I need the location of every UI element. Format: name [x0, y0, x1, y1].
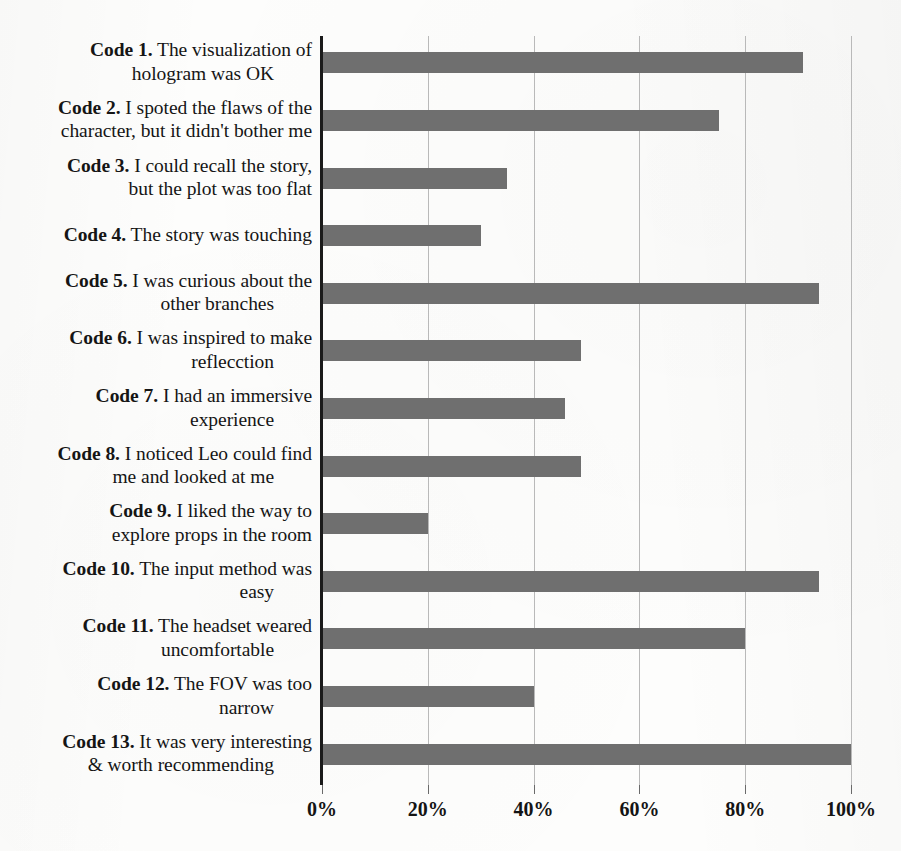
- code-text: The visualization of: [153, 39, 312, 60]
- category-label: Code 6. I was inspired to makereflecctio…: [6, 326, 312, 373]
- bar: [322, 628, 745, 649]
- category-label: Code 11. The headset weareduncomfortable: [6, 614, 312, 661]
- category-label: Code 9. I liked the way toexplore props …: [6, 499, 312, 546]
- category-label-line-1: Code 2. I spoted the flaws of the: [6, 96, 312, 120]
- category-label-line-2: but the plot was too flat: [6, 177, 312, 201]
- category-label-line-2: narrow: [6, 696, 312, 720]
- bar: [322, 744, 851, 765]
- code-text: I liked the way to: [172, 500, 312, 521]
- x-axis-tick: [851, 785, 852, 794]
- code-key: Code 3.: [67, 155, 129, 176]
- category-label: Code 10. The input method waseasy: [6, 557, 312, 604]
- category-label-line-1: Code 9. I liked the way to: [6, 499, 312, 523]
- category-label-line-2: me and looked at me: [6, 465, 312, 489]
- category-label-line-1: Code 4. The story was touching: [6, 223, 312, 247]
- code-key: Code 6.: [69, 327, 131, 348]
- x-gridline: [639, 36, 640, 785]
- code-text: I had an immersive: [158, 385, 312, 406]
- category-label-line-2: other branches: [6, 292, 312, 316]
- bar: [322, 283, 819, 304]
- chart-page: Code 1. The visualization ofhologram was…: [0, 0, 901, 851]
- bar: [322, 456, 581, 477]
- code-text: I was inspired to make: [132, 327, 312, 348]
- code-text: The FOV was too: [169, 673, 312, 694]
- code-key: Code 10.: [62, 558, 134, 579]
- category-label-line-1: Code 10. The input method was: [6, 557, 312, 581]
- category-label-line-2: uncomfortable: [6, 638, 312, 662]
- category-label-line-1: Code 12. The FOV was too: [6, 672, 312, 696]
- category-label: Code 13. It was very interesting& worth …: [6, 730, 312, 777]
- code-key: Code 12.: [97, 673, 169, 694]
- bar: [322, 110, 719, 131]
- bar: [322, 340, 581, 361]
- x-axis-tick: [639, 785, 640, 794]
- category-label-line-1: Code 1. The visualization of: [6, 38, 312, 62]
- x-axis-tick-label: 80%: [705, 798, 785, 821]
- x-gridline: [745, 36, 746, 785]
- x-axis-tick-label: 60%: [599, 798, 679, 821]
- category-label-line-1: Code 7. I had an immersive: [6, 384, 312, 408]
- code-key: Code 8.: [57, 443, 119, 464]
- category-label: Code 2. I spoted the flaws of thecharact…: [6, 96, 312, 143]
- bar: [322, 571, 819, 592]
- x-axis-tick-label: 20%: [388, 798, 468, 821]
- category-label-line-2: & worth recommending: [6, 753, 312, 777]
- x-axis-tick: [428, 785, 429, 794]
- bar: [322, 686, 534, 707]
- bar: [322, 398, 565, 419]
- code-key: Code 13.: [62, 731, 134, 752]
- x-axis-tick-label: 100%: [811, 798, 891, 821]
- category-label-line-2: hologram was OK: [6, 62, 312, 86]
- code-text: The input method was: [135, 558, 312, 579]
- code-key: Code 11.: [82, 615, 153, 636]
- category-label-line-2: experience: [6, 408, 312, 432]
- code-key: Code 1.: [90, 39, 152, 60]
- x-axis-tick-label: 0%: [282, 798, 362, 821]
- category-label-line-1: Code 3. I could recall the story,: [6, 154, 312, 178]
- code-key: Code 5.: [65, 270, 127, 291]
- category-label: Code 4. The story was touching: [6, 223, 312, 247]
- code-text: The headset weared: [154, 615, 312, 636]
- category-label: Code 1. The visualization ofhologram was…: [6, 38, 312, 85]
- category-label-line-2: reflecction: [6, 350, 312, 374]
- bar: [322, 513, 428, 534]
- code-key: Code 4.: [64, 224, 126, 245]
- bar: [322, 168, 507, 189]
- x-axis-tick: [534, 785, 535, 794]
- category-label: Code 7. I had an immersiveexperience: [6, 384, 312, 431]
- plot-area: 0%20%40%60%80%100%: [322, 36, 851, 785]
- code-key: Code 9.: [109, 500, 171, 521]
- category-label: Code 5. I was curious about theother bra…: [6, 269, 312, 316]
- category-label: Code 12. The FOV was toonarrow: [6, 672, 312, 719]
- code-text: I could recall the story,: [129, 155, 312, 176]
- x-axis-tick: [745, 785, 746, 794]
- bar: [322, 225, 481, 246]
- category-label-line-1: Code 11. The headset weared: [6, 614, 312, 638]
- category-label-line-1: Code 13. It was very interesting: [6, 730, 312, 754]
- bar: [322, 52, 803, 73]
- code-text: It was very interesting: [135, 731, 313, 752]
- code-key: Code 2.: [58, 97, 120, 118]
- category-label-line-1: Code 6. I was inspired to make: [6, 326, 312, 350]
- x-axis-tick-label: 40%: [494, 798, 574, 821]
- category-label: Code 8. I noticed Leo could findme and l…: [6, 442, 312, 489]
- code-text: The story was touching: [126, 224, 312, 245]
- x-axis-tick: [322, 785, 323, 794]
- code-text: I spoted the flaws of the: [121, 97, 312, 118]
- category-label-column: Code 1. The visualization ofhologram was…: [0, 36, 312, 785]
- category-label-line-1: Code 5. I was curious about the: [6, 269, 312, 293]
- category-label-line-1: Code 8. I noticed Leo could find: [6, 442, 312, 466]
- code-key: Code 7.: [96, 385, 158, 406]
- code-text: I was curious about the: [127, 270, 312, 291]
- category-label-line-2: easy: [6, 580, 312, 604]
- category-label-line-2: character, but it didn't bother me: [6, 119, 312, 143]
- y-axis-line: [320, 36, 323, 785]
- x-gridline: [851, 36, 852, 785]
- category-label: Code 3. I could recall the story,but the…: [6, 154, 312, 201]
- category-label-line-2: explore props in the room: [6, 523, 312, 547]
- code-text: I noticed Leo could find: [120, 443, 312, 464]
